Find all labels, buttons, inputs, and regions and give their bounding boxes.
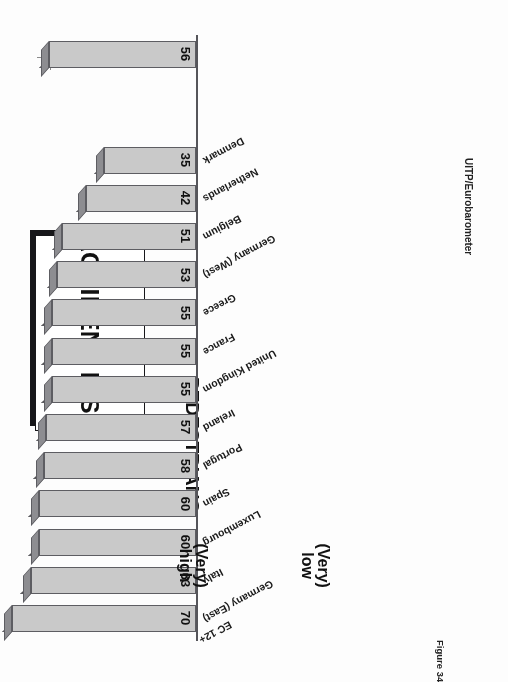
bar-high-5: 57	[47, 414, 197, 441]
bar-front-face	[52, 299, 197, 326]
page-title: ACCIDENT RISK	[0, 279, 187, 387]
series-label-high: (Very) high	[177, 521, 210, 611]
series-label-low-line1: (Very)	[315, 543, 332, 587]
bar-high-7: 55	[52, 338, 197, 365]
bar-high-3: 60	[39, 490, 197, 517]
bar-front-face	[47, 414, 197, 441]
source-note: UITP/Eurobarometer	[463, 158, 474, 255]
bar-side-face	[78, 185, 86, 221]
bar-high-6: 55	[52, 376, 197, 403]
bar-value-label: 35	[179, 153, 194, 167]
series-label-low-line2: low	[299, 552, 316, 579]
bar-front-face	[31, 567, 197, 594]
bar-value-label: 51	[179, 229, 194, 243]
bar-high-1: 63	[31, 567, 197, 594]
bar-high-4: 58	[44, 452, 197, 479]
bar-value-label: 56	[179, 47, 194, 61]
bar-high-12: 35	[104, 147, 196, 174]
bar-front-face	[44, 452, 197, 479]
bar-high-9: 53	[57, 261, 196, 288]
bar-value-label: 55	[179, 344, 194, 358]
bar-side-face	[96, 147, 104, 183]
bar-value-label: 57	[179, 420, 194, 434]
bar-value-label: 58	[179, 458, 194, 472]
bar-value-label: 42	[179, 191, 194, 205]
bar-high-summary: 56	[49, 41, 196, 68]
bar-front-face	[52, 338, 197, 365]
bar-high-8: 55	[52, 299, 197, 326]
figure-caption: Figure 34	[435, 640, 446, 682]
bar-value-label: 55	[179, 306, 194, 320]
bar-front-face	[52, 376, 197, 403]
series-label-high-line2: high	[177, 549, 194, 583]
bar-high-10: 51	[62, 223, 196, 250]
bar-front-face	[62, 223, 196, 250]
bar-front-face	[39, 529, 197, 556]
bar-front-face	[12, 605, 196, 632]
series-label-low: (Very) low	[299, 521, 332, 611]
bar-front-face	[49, 41, 196, 68]
bar-side-face	[39, 414, 47, 450]
bar-value-label: 55	[179, 382, 194, 396]
bar-side-face	[31, 529, 39, 565]
bar-front-face	[39, 490, 197, 517]
bar-side-face	[41, 41, 49, 77]
bar-value-label: 53	[179, 267, 194, 281]
bar-high-2: 60	[39, 529, 197, 556]
bar-value-label: 60	[179, 497, 194, 511]
bar-side-face	[31, 490, 39, 526]
bar-high-11: 42	[86, 185, 196, 212]
bar-value-label: 70	[179, 611, 194, 625]
bar-front-face	[57, 261, 196, 288]
bar-high-0: 70	[12, 605, 196, 632]
bar-side-face	[23, 567, 31, 603]
series-label-high-line1: (Very)	[193, 543, 210, 587]
bar-side-face	[4, 605, 12, 641]
bar-side-face	[36, 452, 44, 488]
